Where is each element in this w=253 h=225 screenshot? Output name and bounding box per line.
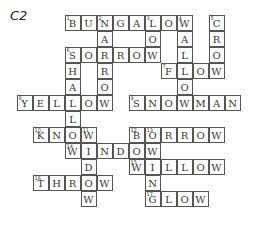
crossword-cell[interactable]: L xyxy=(49,95,65,111)
crossword-cell[interactable]: O xyxy=(129,143,145,159)
crossword-cell[interactable]: D xyxy=(113,143,129,159)
crossword-cell[interactable]: R xyxy=(209,31,225,47)
cell-letter: W xyxy=(146,146,160,158)
cell-letter: A xyxy=(66,82,80,94)
crossword-cell[interactable]: L xyxy=(65,111,81,127)
crossword-cell[interactable]: 13O xyxy=(145,127,161,143)
cell-letter: W xyxy=(210,130,224,142)
crossword-cell[interactable]: O xyxy=(81,175,97,191)
crossword-cell[interactable]: 7F xyxy=(161,63,177,79)
crossword-cell[interactable]: O xyxy=(97,79,113,95)
crossword-cell[interactable]: 9S xyxy=(129,95,145,111)
crossword-cell[interactable]: L xyxy=(161,191,177,207)
crossword-cell[interactable]: W xyxy=(209,63,225,79)
crossword-cell[interactable]: N xyxy=(49,127,65,143)
crossword-cell[interactable]: H xyxy=(65,63,81,79)
crossword-cell[interactable]: O xyxy=(177,191,193,207)
crossword-cell[interactable]: R xyxy=(65,175,81,191)
crossword-cell[interactable]: 3L xyxy=(145,15,161,31)
crossword-cell[interactable]: 2N xyxy=(97,15,113,31)
crossword-cell[interactable]: 16T xyxy=(33,175,49,191)
crossword-cell[interactable]: O xyxy=(177,79,193,95)
crossword-cell[interactable]: O xyxy=(81,47,97,63)
crossword-cell[interactable]: R xyxy=(97,63,113,79)
cell-letter: Y xyxy=(18,98,32,110)
crossword-cell[interactable]: L xyxy=(177,159,193,175)
crossword-cell[interactable]: 17G xyxy=(145,191,161,207)
crossword-cell[interactable]: W xyxy=(177,95,193,111)
crossword-cell[interactable]: O xyxy=(161,95,177,111)
cell-letter: O xyxy=(82,178,96,190)
cell-letter: S xyxy=(130,98,144,110)
cell-letter: C xyxy=(210,18,224,30)
crossword-cell[interactable]: L xyxy=(65,95,81,111)
crossword-cell[interactable]: O xyxy=(209,47,225,63)
crossword-cell[interactable]: W xyxy=(145,143,161,159)
crossword-cell[interactable]: M xyxy=(193,95,209,111)
crossword-cell[interactable]: H xyxy=(49,175,65,191)
crossword-cell[interactable]: I xyxy=(81,143,97,159)
cell-letter: H xyxy=(50,178,64,190)
crossword-cell[interactable]: O xyxy=(193,63,209,79)
crossword-cell[interactable]: A xyxy=(129,15,145,31)
crossword-cell[interactable]: A xyxy=(65,79,81,95)
crossword-cell[interactable]: 15W xyxy=(129,159,145,175)
cell-letter: W xyxy=(178,98,192,110)
crossword-cell[interactable]: U xyxy=(81,15,97,31)
cell-letter: S xyxy=(66,50,80,62)
crossword-cell[interactable]: L xyxy=(177,63,193,79)
crossword-cell[interactable]: O xyxy=(65,127,81,143)
crossword-cell[interactable]: N xyxy=(97,143,113,159)
crossword-cell[interactable]: E xyxy=(33,95,49,111)
crossword-cell[interactable]: O xyxy=(161,15,177,31)
crossword-cell[interactable]: W xyxy=(81,191,97,207)
crossword-cell[interactable]: G xyxy=(113,15,129,31)
crossword-cell[interactable]: 8Y xyxy=(17,95,33,111)
crossword-cell[interactable]: O xyxy=(193,159,209,175)
crossword-cell[interactable]: 1B xyxy=(65,15,81,31)
crossword-cell[interactable]: O xyxy=(193,127,209,143)
crossword-cell[interactable]: O xyxy=(129,47,145,63)
cell-letter: W xyxy=(194,194,208,206)
crossword-cell[interactable]: W xyxy=(97,95,113,111)
crossword-cell[interactable]: 14W xyxy=(65,143,81,159)
crossword-cell[interactable]: W xyxy=(145,47,161,63)
crossword-cell[interactable]: R xyxy=(177,127,193,143)
crossword-cell[interactable]: W xyxy=(97,175,113,191)
crossword-cell[interactable]: W xyxy=(209,127,225,143)
crossword-cell[interactable]: N xyxy=(225,95,241,111)
crossword-cell[interactable]: L xyxy=(177,47,193,63)
crossword-cell[interactable]: 5C xyxy=(209,15,225,31)
crossword-cell[interactable]: N xyxy=(145,175,161,191)
crossword-cell[interactable]: R xyxy=(161,127,177,143)
crossword-cell[interactable]: A xyxy=(177,31,193,47)
crossword-cell[interactable]: W xyxy=(193,191,209,207)
cell-letter: N xyxy=(226,98,240,110)
crossword-cell[interactable]: L xyxy=(161,159,177,175)
crossword-cell[interactable]: O xyxy=(81,95,97,111)
crossword-cell[interactable]: O xyxy=(145,31,161,47)
cell-letter: A xyxy=(210,98,224,110)
cell-letter: A xyxy=(130,18,144,30)
crossword-cell[interactable]: 12B xyxy=(129,127,145,143)
crossword-cell[interactable]: I xyxy=(145,159,161,175)
crossword-cell[interactable]: R xyxy=(97,47,113,63)
cell-letter: L xyxy=(162,194,176,206)
cell-letter: U xyxy=(82,18,96,30)
cell-letter: W xyxy=(66,146,80,158)
crossword-cell[interactable]: 11W xyxy=(81,127,97,143)
cell-letter: R xyxy=(98,66,112,78)
cell-letter: R xyxy=(210,34,224,46)
crossword-cell[interactable]: 6S xyxy=(65,47,81,63)
cell-letter: L xyxy=(146,18,160,30)
cell-letter: F xyxy=(162,66,176,78)
crossword-cell[interactable]: W xyxy=(209,159,225,175)
crossword-cell[interactable]: A xyxy=(209,95,225,111)
crossword-cell[interactable]: N xyxy=(145,95,161,111)
cell-letter: G xyxy=(114,18,128,30)
crossword-cell[interactable]: 4W xyxy=(177,15,193,31)
crossword-cell[interactable]: D xyxy=(81,159,97,175)
crossword-cell[interactable]: R xyxy=(113,47,129,63)
crossword-cell[interactable]: A xyxy=(97,31,113,47)
crossword-cell[interactable]: 10K xyxy=(33,127,49,143)
